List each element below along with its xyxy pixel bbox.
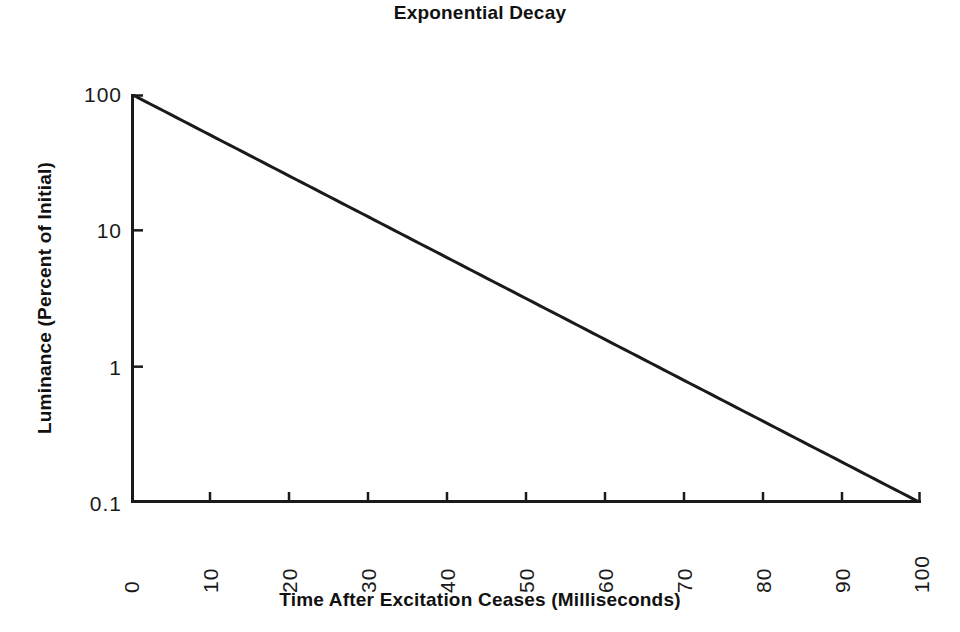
x-tick-label: 50 — [526, 513, 547, 593]
x-tick-label: 80 — [763, 513, 784, 593]
x-axis-tick-labels: 0102030405060708090100 — [0, 0, 960, 632]
x-tick-label: 0 — [131, 513, 152, 593]
x-tick-label: 60 — [605, 513, 626, 593]
x-tick-label: 70 — [684, 513, 705, 593]
x-tick-label: 100 — [921, 513, 942, 593]
x-axis-label: Time After Excitation Ceases (Millisecon… — [0, 589, 960, 611]
x-tick-label: 40 — [447, 513, 468, 593]
x-tick-label: 30 — [368, 513, 389, 593]
x-tick-label: 20 — [289, 513, 310, 593]
x-tick-label: 10 — [210, 513, 231, 593]
chart-figure: Exponential Decay Luminance (Percent of … — [0, 0, 960, 632]
x-tick-label: 90 — [842, 513, 863, 593]
